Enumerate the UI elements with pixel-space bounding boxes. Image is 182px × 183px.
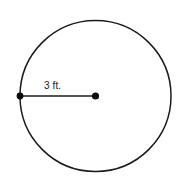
radius-measure-label: 3 ft. — [44, 80, 61, 92]
circumference-point-dot — [17, 93, 24, 100]
center-point-dot — [92, 92, 99, 99]
geometry-svg — [0, 0, 182, 183]
circle-diagram-canvas: 3 ft. — [0, 0, 182, 183]
